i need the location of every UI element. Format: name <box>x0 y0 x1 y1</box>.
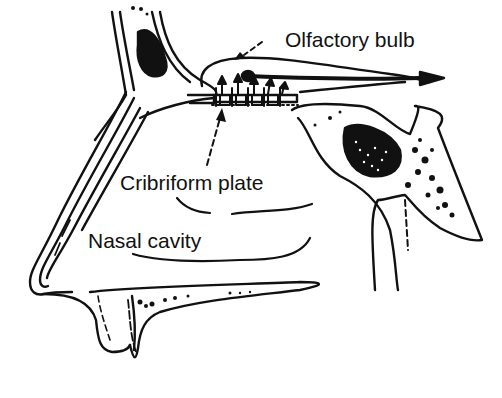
cribriform-plate-label: Cribriform plate <box>120 172 264 193</box>
nasal-cavity-label: Nasal cavity <box>88 230 201 251</box>
hard-palate <box>44 282 319 357</box>
anatomy-drawing <box>0 0 502 398</box>
sphenoid-bone <box>292 104 482 290</box>
nasal-anatomy-diagram: Olfactory bulb Cribriform plate Nasal ca… <box>0 0 502 398</box>
cribriform-leader <box>207 108 226 165</box>
cribriform-plate <box>188 88 298 106</box>
frontal-bone <box>95 6 216 140</box>
olfactory-bulb-label: Olfactory bulb <box>285 29 415 50</box>
olfactory-tract-arrow-icon <box>420 72 444 85</box>
